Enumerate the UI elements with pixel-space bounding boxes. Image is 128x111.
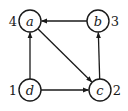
node-d-order: 1 — [9, 83, 17, 98]
node-b: b 3 — [87, 10, 119, 32]
edge-c-to-b — [98, 32, 99, 79]
node-b-order: 3 — [111, 14, 119, 29]
node-a: a 4 — [9, 10, 41, 32]
node-a-label: a — [26, 14, 34, 29]
directed-graph: a 4 b 3 c 2 d 1 — [0, 0, 128, 111]
node-d-label: d — [26, 83, 34, 98]
node-c: c 2 — [89, 79, 121, 101]
edge-a-to-c — [38, 29, 92, 82]
node-b-label: b — [94, 14, 102, 29]
node-c-label: c — [96, 83, 104, 98]
edges-group — [30, 21, 100, 90]
node-d: d 1 — [9, 79, 41, 101]
node-a-order: 4 — [9, 14, 17, 29]
node-c-order: 2 — [113, 83, 121, 98]
